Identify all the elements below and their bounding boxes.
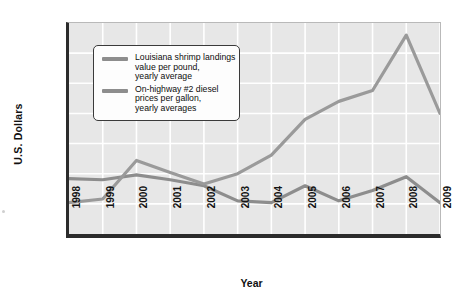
grey-line-swatch	[102, 89, 128, 93]
x-axis-title: Year	[66, 277, 437, 289]
chart-legend: Louisiana shrimp landingsvalue per pound…	[93, 45, 240, 121]
legend-item-label: On-highway #2 dieselprices per gallon,ye…	[135, 85, 219, 114]
legend-item-label: Louisiana shrimp landingsvalue per pound…	[135, 53, 235, 82]
legend-item: On-highway #2 dieselprices per gallon,ye…	[101, 85, 233, 114]
legend-label-line: yearly average	[135, 72, 235, 82]
chart-container: U.S. Dollars $4.00$3.50$3.00$2.50$2.00$1…	[0, 0, 456, 295]
x-tick-label: 2009	[442, 186, 453, 238]
page-speck	[2, 210, 5, 213]
grey-line-swatch	[102, 57, 128, 61]
legend-label-line: yearly averages	[135, 104, 219, 114]
legend-item: Louisiana shrimp landingsvalue per pound…	[101, 53, 233, 82]
y-axis-title: U.S. Dollars	[12, 74, 24, 194]
